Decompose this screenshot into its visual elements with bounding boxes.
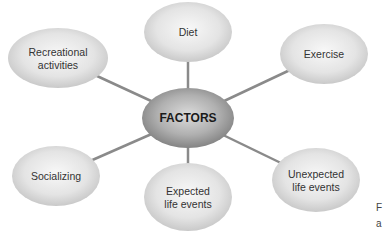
node-label: Diet: [179, 26, 198, 38]
node-label: activities: [38, 59, 78, 71]
node-label: Unexpected: [288, 168, 344, 180]
cropped-caption-line-1: F: [376, 202, 382, 213]
center-node: FACTORS: [142, 88, 234, 148]
node-label: Expected: [166, 185, 210, 197]
node-exercise: Exercise: [280, 24, 368, 84]
node-unexpected-life-events: Unexpectedlife events: [272, 148, 360, 212]
cropped-caption-line-2: a: [376, 218, 382, 229]
factors-mind-map: DietExerciseRecreationalactivitiesSocial…: [0, 0, 383, 236]
node-diet: Diet: [144, 2, 232, 62]
node-label: Exercise: [304, 48, 344, 60]
node-label: Recreational: [29, 46, 88, 58]
node-socializing: Socializing: [12, 146, 100, 206]
center-label: FACTORS: [159, 111, 216, 125]
node-recreational-activities: Recreationalactivities: [8, 28, 108, 88]
node-label: life events: [164, 198, 211, 210]
node-label: life events: [292, 181, 339, 193]
node-expected-life-events: Expectedlife events: [144, 163, 232, 231]
node-label: Socializing: [31, 170, 81, 182]
